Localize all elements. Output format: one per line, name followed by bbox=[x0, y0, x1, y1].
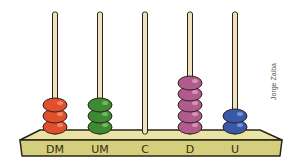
bead-highlight bbox=[237, 123, 243, 127]
credit-text: Jorge Zaiba bbox=[270, 63, 277, 100]
label-dm: DM bbox=[46, 143, 64, 156]
bead bbox=[43, 98, 67, 112]
bead-highlight bbox=[57, 101, 63, 105]
label-um: UM bbox=[91, 143, 109, 156]
bead-highlight bbox=[57, 123, 63, 127]
bead bbox=[223, 109, 247, 123]
rod-d bbox=[178, 12, 202, 134]
bead-highlight bbox=[102, 112, 108, 116]
rods bbox=[43, 12, 247, 134]
bead-highlight bbox=[102, 123, 108, 127]
bead-highlight bbox=[102, 101, 108, 105]
bead-highlight bbox=[192, 123, 198, 127]
bead-highlight bbox=[192, 90, 198, 94]
label-u: U bbox=[231, 143, 239, 156]
rod-u bbox=[223, 12, 247, 134]
rod-um bbox=[88, 12, 112, 134]
bead-highlight bbox=[237, 112, 243, 116]
bead bbox=[178, 76, 202, 90]
bead-highlight bbox=[192, 101, 198, 105]
rod-stick bbox=[143, 12, 148, 134]
label-d: D bbox=[186, 143, 194, 156]
rod-dm bbox=[43, 12, 67, 134]
bead-highlight bbox=[192, 112, 198, 116]
bead-highlight bbox=[57, 112, 63, 116]
abacus-diagram: DMUMCDU bbox=[0, 0, 297, 166]
rod-c bbox=[143, 12, 148, 134]
bead-highlight bbox=[192, 79, 198, 83]
bead bbox=[88, 98, 112, 112]
label-c: C bbox=[141, 143, 149, 156]
